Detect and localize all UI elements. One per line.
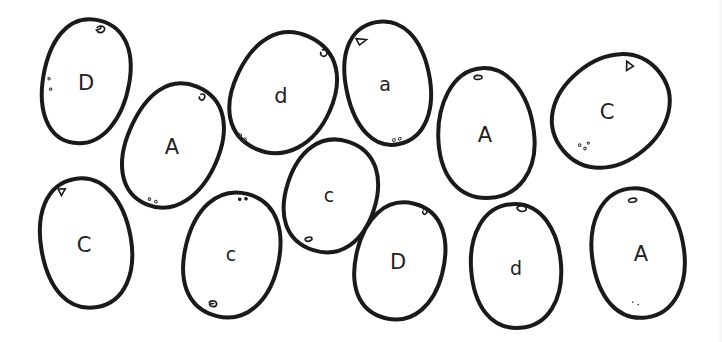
potato-11-letter: d xyxy=(510,257,522,279)
potato-10-letter: D xyxy=(390,250,406,274)
page-edge xyxy=(716,0,722,342)
potato-8-letter: c xyxy=(226,243,236,265)
potato-6-letter: C xyxy=(600,100,615,124)
potato-3-letter: d xyxy=(274,84,287,108)
potato-5-letter: A xyxy=(478,123,493,147)
potato-1-letter: D xyxy=(78,71,94,95)
potato-2-letter: A xyxy=(165,135,180,159)
potato-9-letter: c xyxy=(324,184,334,206)
potato-12-letter: A xyxy=(634,242,649,266)
potato-7-letter: C xyxy=(77,233,92,257)
worksheet-page: D A d a A xyxy=(0,0,722,342)
potato-4-letter: a xyxy=(379,73,391,95)
potato-scene: D A d a A xyxy=(0,0,722,342)
